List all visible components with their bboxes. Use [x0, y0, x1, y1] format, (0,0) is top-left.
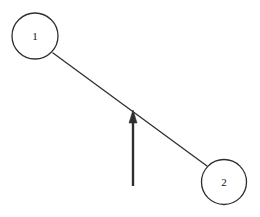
node-2[interactable]: 2 [202, 160, 247, 205]
node-2-label: 2 [221, 176, 227, 188]
node-1[interactable]: 1 [12, 13, 58, 59]
edge-node1-node2[interactable] [53, 53, 207, 166]
node-1-label: 1 [32, 30, 38, 42]
node-link-diagram: 1 2 [0, 0, 260, 217]
force-arrow-head-icon [129, 110, 137, 123]
diagram-canvas: 1 2 [0, 0, 260, 217]
force-arrow[interactable] [129, 110, 137, 186]
